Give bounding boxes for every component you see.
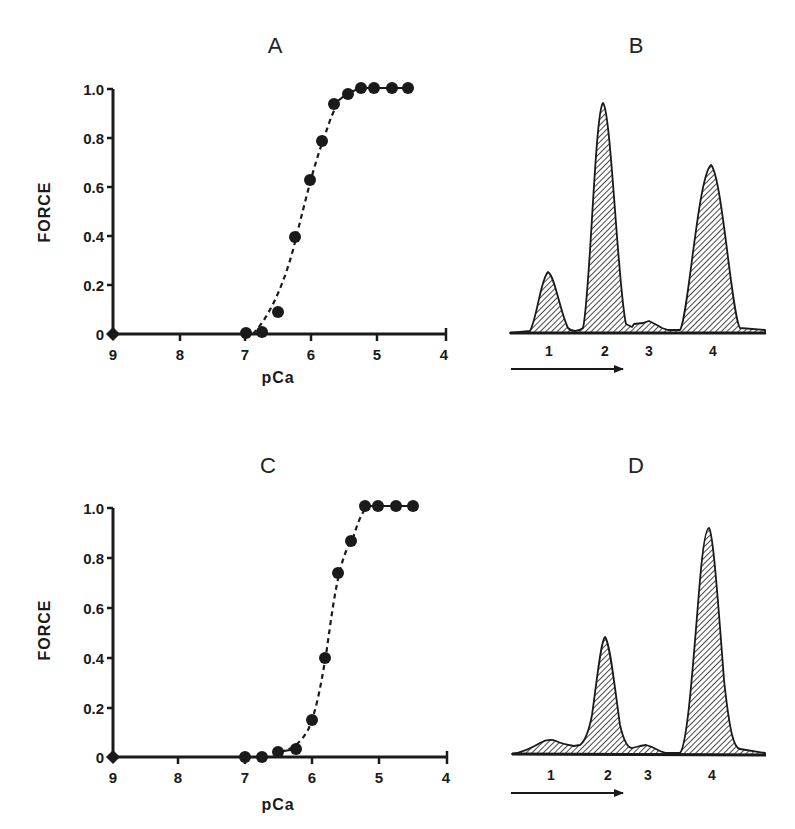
data-point — [407, 500, 419, 512]
panel-c: C FORCE 1.0 0.8 0.6 0.4 0.2 0 9 8 7 — [36, 453, 451, 813]
data-point — [316, 135, 328, 147]
fit-curve-a — [253, 101, 340, 334]
data-point — [272, 306, 284, 318]
x-tick-label: 6 — [307, 346, 315, 363]
x-tick-label: 9 — [109, 346, 117, 363]
y-tick-label: 1.0 — [83, 500, 104, 517]
panel-d: D 1 2 3 4 — [511, 453, 766, 793]
x-tick-label: 4 — [440, 346, 449, 363]
y-tick-label: 0.8 — [83, 130, 104, 147]
data-point — [386, 82, 398, 94]
band-label: 4 — [709, 343, 717, 359]
x-axis-a: 9 8 7 6 5 4 pCa — [109, 328, 449, 386]
band-label: 4 — [708, 767, 716, 783]
x-tick-label: 8 — [176, 346, 184, 363]
x-tick-label: 9 — [109, 769, 117, 786]
data-point — [368, 82, 380, 94]
data-point — [402, 82, 414, 94]
data-point — [240, 327, 252, 339]
x-tick-label: 6 — [308, 769, 316, 786]
y-tick-label: 0.4 — [83, 228, 105, 245]
data-point — [359, 500, 371, 512]
data-point — [355, 82, 367, 94]
x-tick-label: 7 — [241, 769, 249, 786]
panel-a: A FORCE 1.0 0.8 0.6 0.4 0.2 0 9 8 7 — [36, 33, 449, 386]
y-axis-label-c: FORCE — [36, 600, 53, 661]
data-point — [319, 652, 331, 664]
panel-b: B 1 2 3 4 — [510, 33, 766, 369]
x-axis-c: 9 8 7 6 5 4 pCa — [109, 751, 451, 813]
densitometer-trace-d — [512, 528, 765, 755]
panel-title-a: A — [268, 33, 283, 58]
x-axis-label-c: pCa — [261, 796, 294, 813]
panel-title-c: C — [260, 453, 276, 478]
data-point — [345, 535, 357, 547]
y-axis-a: 1.0 0.8 0.6 0.4 0.2 0 — [83, 81, 113, 343]
data-point — [289, 231, 301, 243]
data-point — [256, 751, 268, 763]
data-point — [304, 174, 316, 186]
band-label: 2 — [601, 343, 609, 359]
data-points-a — [106, 82, 414, 341]
band-label: 3 — [645, 343, 653, 359]
data-point — [272, 746, 284, 758]
data-point — [306, 714, 318, 726]
densitometer-trace-b — [510, 103, 765, 333]
data-point — [256, 326, 268, 338]
y-tick-label: 0.8 — [83, 550, 104, 567]
x-tick-label: 7 — [241, 346, 249, 363]
data-point — [390, 500, 402, 512]
y-axis-label-a: FORCE — [36, 182, 53, 243]
x-tick-label: 8 — [174, 769, 182, 786]
data-points-c — [106, 500, 419, 764]
data-point — [342, 88, 354, 100]
panel-title-d: D — [628, 453, 644, 478]
x-tick-label: 5 — [373, 346, 381, 363]
y-axis-c: 1.0 0.8 0.6 0.4 0.2 0 — [83, 500, 113, 766]
panel-title-b: B — [629, 33, 644, 58]
y-tick-label: 0.2 — [83, 277, 104, 294]
data-point — [372, 500, 384, 512]
y-tick-label: 0.6 — [83, 600, 104, 617]
x-tick-label: 5 — [375, 769, 383, 786]
data-point — [106, 750, 120, 764]
figure: A FORCE 1.0 0.8 0.6 0.4 0.2 0 9 8 7 — [0, 0, 795, 829]
data-point — [290, 743, 302, 755]
y-tick-label: 0.4 — [83, 650, 105, 667]
x-tick-label: 4 — [442, 769, 451, 786]
data-point — [328, 98, 340, 110]
data-point — [106, 327, 120, 341]
data-point — [332, 567, 344, 579]
band-label: 2 — [604, 767, 612, 783]
y-tick-label: 0 — [96, 326, 104, 343]
band-label: 1 — [545, 343, 553, 359]
baseline-d — [512, 754, 766, 755]
y-tick-label: 0 — [96, 749, 104, 766]
band-label: 3 — [644, 767, 652, 783]
y-tick-label: 1.0 — [83, 81, 104, 98]
y-tick-label: 0.6 — [83, 179, 104, 196]
x-axis-label-a: pCa — [261, 369, 294, 386]
y-tick-label: 0.2 — [83, 700, 104, 717]
band-label: 1 — [547, 767, 555, 783]
data-point — [239, 751, 251, 763]
